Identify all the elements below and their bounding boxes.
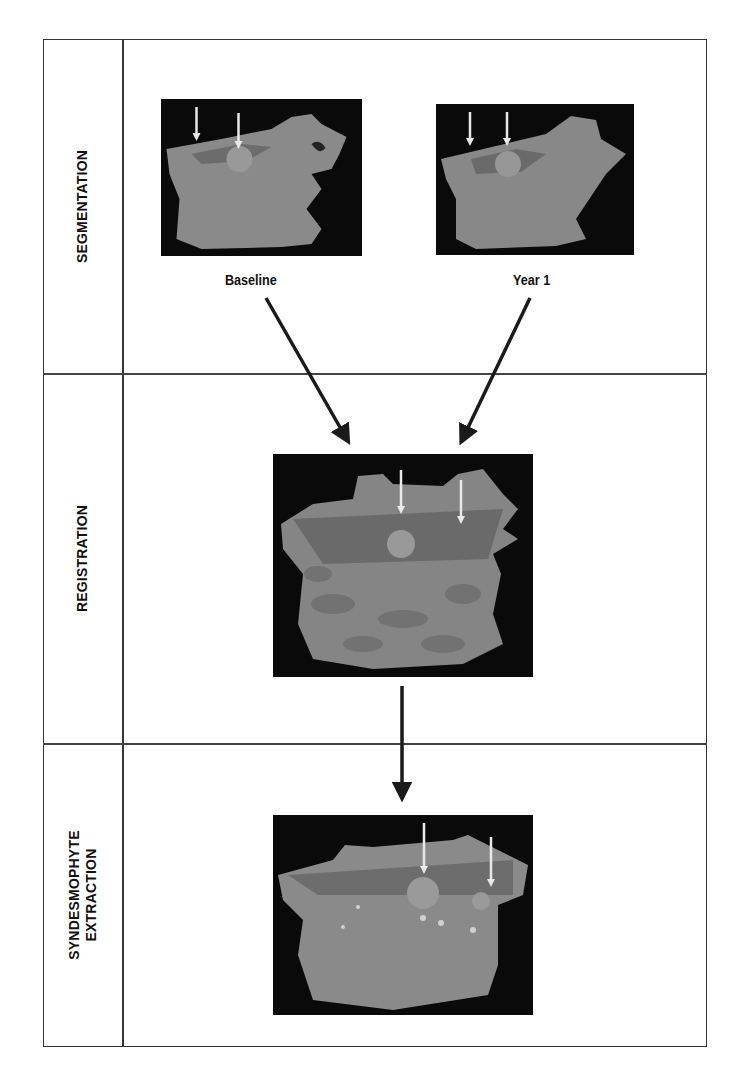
row-label-segmentation: SEGMENTATION <box>43 39 122 373</box>
row-label-extraction: SYNDESMOPHYTEEXTRACTION <box>43 743 122 1047</box>
year1-vertebra-image <box>436 104 634 255</box>
registration-vertebra-image <box>273 454 533 677</box>
row-divider-2 <box>43 743 707 745</box>
extraction-vertebra-image <box>273 815 533 1015</box>
extraction-label-line2: EXTRACTION <box>83 830 100 959</box>
registration-label: REGISTRATION <box>74 504 91 611</box>
baseline-vertebra-image <box>161 99 362 256</box>
segmentation-label: SEGMENTATION <box>74 149 91 262</box>
row-divider-1 <box>43 373 707 375</box>
vertebra-render-syndesmophytes-icon <box>273 815 533 1015</box>
extraction-label-line1: SYNDESMOPHYTE <box>66 830 83 959</box>
year1-caption: Year 1 <box>513 272 550 288</box>
baseline-caption: Baseline <box>225 272 277 288</box>
column-divider <box>122 39 124 1047</box>
vertebra-render-baseline-icon <box>161 99 362 256</box>
extraction-label: SYNDESMOPHYTEEXTRACTION <box>66 830 100 959</box>
vertebra-render-registered-icon <box>273 454 533 677</box>
row-label-registration: REGISTRATION <box>43 373 122 743</box>
vertebra-render-year1-icon <box>436 104 634 255</box>
